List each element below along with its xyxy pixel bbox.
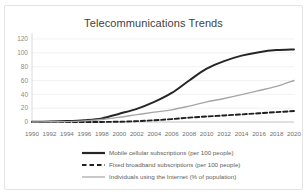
x-tick-label: 2002 [130,130,144,137]
y-tick-label: 40 [21,91,29,98]
legend-label-2[interactable]: Fixed broadband subscriptions (per 100 p… [109,161,240,168]
y-tick-label: 0 [24,118,28,125]
legend-label-1[interactable]: Mobile cellular subscriptions (per 100 p… [109,149,234,156]
chart-card: Telecommunications Trends 02040608010012… [4,5,303,190]
x-tick-label: 1990 [25,130,39,137]
x-tick-label: 2016 [252,130,266,137]
x-tick-label: 1998 [95,130,109,137]
x-tick-label: 2006 [165,130,179,137]
x-tick-label: 2018 [270,130,284,137]
x-tick-label: 2008 [182,130,196,137]
y-tick-label: 80 [21,63,29,70]
series-line-3 [32,81,294,122]
x-tick-label: 2014 [235,130,249,137]
x-tick-label: 1992 [43,130,57,137]
y-tick-label: 120 [17,35,28,42]
y-tick-label: 20 [21,104,29,111]
y-tick-label: 60 [21,77,29,84]
x-tick-label: 1994 [60,130,74,137]
x-axis-tick-labels: 1990199219941996199820002002200420062008… [25,130,301,137]
y-axis-tick-labels: 020406080100120 [17,35,28,125]
data-series-group [32,49,294,122]
x-tick-label: 2012 [217,130,231,137]
chart-legend: Mobile cellular subscriptions (per 100 p… [82,149,240,180]
chart-plot-area: 020406080100120 199019921994199619982000… [5,6,304,191]
x-tick-label: 2010 [200,130,214,137]
x-tick-label: 1996 [78,130,92,137]
x-tick-label: 2000 [112,130,126,137]
x-tick-label: 2020 [287,130,301,137]
gridlines [32,33,294,122]
screenshot-root: Telecommunications Trends 02040608010012… [0,0,308,195]
x-tick-label: 2004 [147,130,161,137]
y-tick-label: 100 [17,49,28,56]
legend-label-3[interactable]: Individuals using the Internet (% of pop… [109,173,236,180]
